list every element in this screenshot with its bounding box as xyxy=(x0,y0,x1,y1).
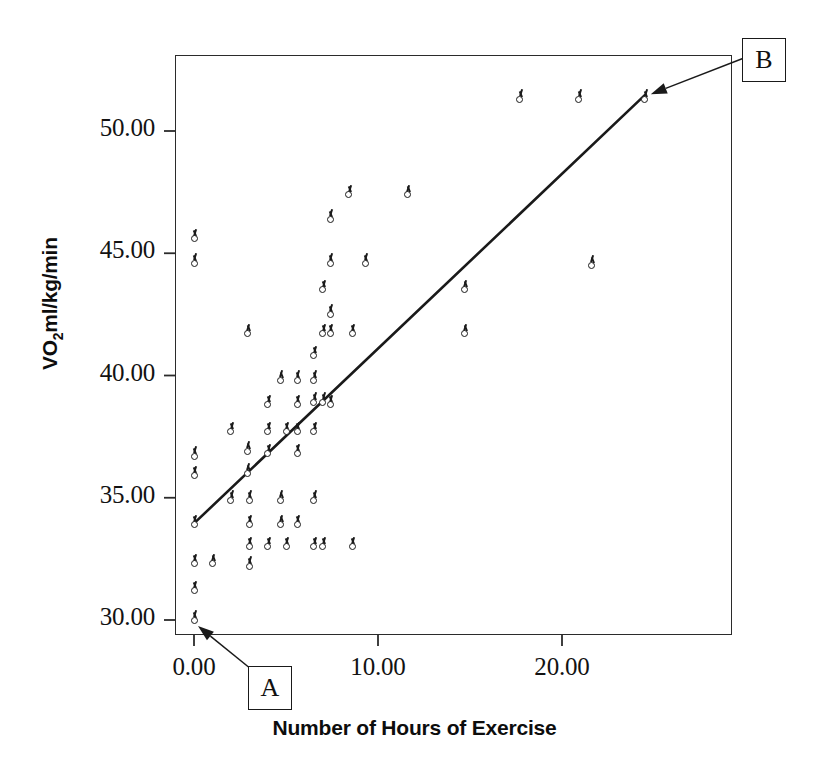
data-point-marker xyxy=(189,555,200,569)
x-axis-title: Number of Hours of Exercise xyxy=(0,716,829,740)
marker-circle-icon xyxy=(191,472,198,479)
data-point-marker xyxy=(189,254,200,268)
marker-circle-icon xyxy=(277,521,284,528)
scatterplot-figure: 30.0035.0040.0045.0050.00 0.0010.0020.00… xyxy=(0,0,829,775)
marker-circle-icon xyxy=(575,96,582,103)
marker-circle-icon xyxy=(191,235,198,242)
y-tick-label: 30.00 xyxy=(0,603,155,631)
data-point-marker xyxy=(244,538,255,552)
data-point-marker xyxy=(515,90,526,104)
data-point-marker xyxy=(275,516,286,530)
marker-circle-icon xyxy=(310,352,317,359)
marker-circle-icon xyxy=(246,563,253,570)
y-axis-title: VO2ml/kg/min xyxy=(38,174,65,434)
data-point-marker xyxy=(189,611,200,625)
marker-circle-icon xyxy=(264,401,271,408)
marker-circle-icon xyxy=(244,470,251,477)
data-point-marker xyxy=(189,516,200,530)
callout-box-a: A xyxy=(248,666,292,710)
marker-circle-icon xyxy=(283,428,290,435)
data-point-marker xyxy=(292,516,303,530)
marker-circle-icon xyxy=(310,543,317,550)
data-point-marker xyxy=(263,423,274,437)
data-point-marker xyxy=(344,186,355,200)
data-point-marker xyxy=(309,491,320,505)
data-point-marker xyxy=(640,90,651,104)
marker-circle-icon xyxy=(264,450,271,457)
data-point-marker xyxy=(459,325,470,339)
data-point-marker xyxy=(292,445,303,459)
data-point-marker xyxy=(402,186,413,200)
marker-circle-icon xyxy=(283,543,290,550)
marker-circle-icon xyxy=(310,377,317,384)
data-point-marker xyxy=(360,254,371,268)
data-point-marker xyxy=(275,491,286,505)
marker-circle-icon xyxy=(516,96,523,103)
marker-circle-icon xyxy=(327,216,334,223)
marker-circle-icon xyxy=(588,262,595,269)
marker-circle-icon xyxy=(227,497,234,504)
data-point-marker xyxy=(309,423,320,437)
marker-circle-icon xyxy=(310,399,317,406)
data-point-marker xyxy=(325,325,336,339)
data-point-marker xyxy=(586,256,597,270)
data-point-marker xyxy=(281,423,292,437)
y-axis-title-subscript: 2 xyxy=(50,333,66,341)
data-point-marker xyxy=(281,538,292,552)
data-point-marker xyxy=(347,538,358,552)
y-tick-label: 45.00 xyxy=(0,236,155,264)
data-point-marker xyxy=(263,445,274,459)
y-tick-label: 40.00 xyxy=(0,359,155,387)
y-axis-title-pre: VO xyxy=(38,340,61,370)
marker-circle-icon xyxy=(209,560,216,567)
data-point-marker xyxy=(325,305,336,319)
data-point-marker xyxy=(189,582,200,596)
data-point-marker xyxy=(189,467,200,481)
data-point-marker xyxy=(189,230,200,244)
marker-circle-icon xyxy=(294,428,301,435)
marker-circle-icon xyxy=(191,260,198,267)
marker-circle-icon xyxy=(327,311,334,318)
marker-circle-icon xyxy=(191,560,198,567)
data-point-marker xyxy=(325,210,336,224)
marker-circle-icon xyxy=(191,617,198,624)
data-point-marker xyxy=(309,347,320,361)
marker-circle-icon xyxy=(277,377,284,384)
data-point-marker xyxy=(244,491,255,505)
marker-circle-icon xyxy=(264,428,271,435)
marker-circle-icon xyxy=(244,330,251,337)
data-point-marker xyxy=(292,423,303,437)
marker-circle-icon xyxy=(319,543,326,550)
marker-circle-icon xyxy=(227,428,234,435)
data-point-marker xyxy=(226,491,237,505)
callout-box-b: B xyxy=(742,38,786,82)
marker-circle-icon xyxy=(244,448,251,455)
marker-circle-icon xyxy=(327,401,334,408)
marker-circle-icon xyxy=(191,587,198,594)
marker-circle-icon xyxy=(191,453,198,460)
data-point-marker xyxy=(318,538,329,552)
data-point-marker xyxy=(242,464,253,478)
data-point-marker xyxy=(292,371,303,385)
data-point-marker xyxy=(459,281,470,295)
data-point-marker xyxy=(309,371,320,385)
marker-circle-icon xyxy=(246,497,253,504)
marker-circle-icon xyxy=(362,260,369,267)
x-tick-label: 0.00 xyxy=(139,653,249,681)
marker-circle-icon xyxy=(277,497,284,504)
data-point-marker xyxy=(226,423,237,437)
data-point-marker xyxy=(347,325,358,339)
marker-circle-icon xyxy=(246,543,253,550)
y-axis-title-post: ml/kg/min xyxy=(38,237,61,332)
marker-circle-icon xyxy=(264,543,271,550)
data-point-marker xyxy=(263,396,274,410)
data-point-marker xyxy=(318,281,329,295)
data-point-marker xyxy=(574,90,585,104)
y-tick-label: 50.00 xyxy=(0,114,155,142)
y-tick-label: 35.00 xyxy=(0,481,155,509)
data-point-marker xyxy=(244,557,255,571)
marker-circle-icon xyxy=(294,450,301,457)
data-point-marker xyxy=(207,555,218,569)
marker-circle-icon xyxy=(641,96,648,103)
marker-circle-icon xyxy=(246,521,253,528)
